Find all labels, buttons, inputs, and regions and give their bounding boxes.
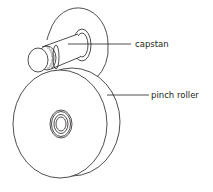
- pinch-roller-face: [13, 70, 107, 178]
- pinch-roller: [13, 68, 120, 178]
- capstan-shaft: [28, 34, 80, 72]
- pinch-roller-label: pinch roller: [151, 90, 199, 100]
- capstan-end-face: [28, 48, 48, 72]
- capstan-label: capstan: [135, 39, 169, 49]
